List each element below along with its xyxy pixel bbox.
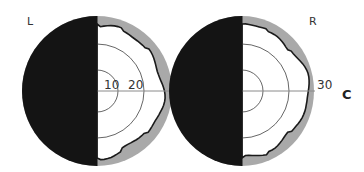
ring-label-30: 30 [317, 78, 332, 92]
panel-label: C [342, 87, 352, 102]
right-eye-label: R [309, 15, 317, 28]
ring-label-10: 10 [104, 78, 119, 92]
visual-field-diagram: L R 10 20 30 C [0, 0, 364, 172]
left-eye-field [22, 16, 172, 166]
left-eye-label: L [27, 15, 34, 28]
right-eye-field [169, 16, 315, 166]
ring-label-20: 20 [128, 78, 143, 92]
